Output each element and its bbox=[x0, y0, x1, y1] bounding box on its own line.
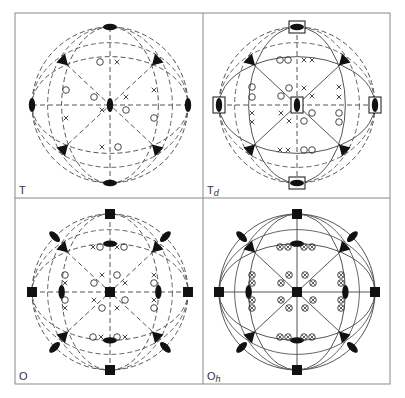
fourfold-axis-icon bbox=[292, 287, 302, 297]
circle-point-icon bbox=[115, 144, 122, 151]
cross-point-icon bbox=[63, 306, 68, 311]
cross-point-icon bbox=[115, 245, 120, 250]
cross-point-icon bbox=[99, 335, 104, 340]
twofold-axis-icon bbox=[155, 285, 161, 299]
circle-point-icon bbox=[151, 280, 158, 287]
circle-point-icon bbox=[90, 334, 97, 341]
cross-point-icon bbox=[64, 116, 69, 121]
circled-cross-point-icon bbox=[279, 281, 283, 285]
twofold-axis-icon bbox=[103, 180, 117, 186]
twofold-axis-icon bbox=[158, 229, 172, 243]
cross-point-icon bbox=[310, 58, 315, 63]
circled-cross-point-icon bbox=[303, 306, 307, 310]
panel-o: O bbox=[19, 209, 193, 382]
threefold-axis-icon bbox=[339, 54, 351, 66]
point-group-figure: TTdOOh bbox=[0, 0, 405, 398]
circle-point-icon bbox=[151, 305, 158, 312]
panel-label: T bbox=[19, 184, 26, 196]
circled-cross-point-icon bbox=[250, 306, 254, 310]
circled-cross-point-icon bbox=[286, 335, 290, 339]
circled-cross-point-icon bbox=[250, 273, 254, 277]
circled-cross-point-icon bbox=[339, 298, 343, 302]
twofold-axis-icon bbox=[342, 285, 348, 299]
twofold-axis-icon bbox=[372, 98, 378, 112]
cross-point-icon bbox=[100, 108, 105, 113]
panel-t: T bbox=[19, 24, 191, 196]
fourfold-axis-icon bbox=[105, 287, 115, 297]
twofold-axis-icon bbox=[47, 340, 61, 354]
cross-point-icon bbox=[286, 148, 291, 153]
circle-point-icon bbox=[336, 110, 343, 117]
circle-point-icon bbox=[122, 297, 129, 304]
circled-cross-point-icon bbox=[339, 306, 343, 310]
circled-cross-point-icon bbox=[250, 281, 254, 285]
twofold-axis-icon bbox=[103, 240, 117, 246]
twofold-axis-icon bbox=[345, 340, 359, 354]
circled-cross-point-icon bbox=[278, 245, 282, 249]
panel-label: O bbox=[19, 370, 28, 382]
cross-point-icon bbox=[337, 95, 342, 100]
cross-point-icon bbox=[337, 85, 342, 90]
twofold-axis-icon bbox=[216, 98, 222, 112]
twofold-axis-icon bbox=[103, 337, 117, 343]
fourfold-axis-icon bbox=[370, 287, 380, 297]
cross-point-icon bbox=[100, 273, 105, 278]
panel-oh: Oh bbox=[207, 209, 380, 384]
twofold-axis-icon bbox=[234, 340, 248, 354]
twofold-axis-icon bbox=[345, 229, 359, 243]
panel-label: Oh bbox=[207, 370, 221, 384]
circle-point-icon bbox=[336, 119, 343, 126]
circled-cross-point-icon bbox=[250, 298, 254, 302]
fourfold-axis-icon bbox=[292, 209, 302, 219]
twofold-axis-icon bbox=[290, 337, 304, 343]
fourfold-axis-icon bbox=[183, 287, 193, 297]
twofold-axis-icon bbox=[290, 240, 304, 246]
circled-cross-point-icon bbox=[310, 245, 314, 249]
cross-point-icon bbox=[115, 60, 120, 65]
twofold-axis-icon bbox=[158, 340, 172, 354]
circle-point-icon bbox=[63, 87, 70, 94]
circle-point-icon bbox=[97, 59, 104, 66]
cross-point-icon bbox=[100, 145, 105, 150]
circle-point-icon bbox=[301, 147, 308, 154]
cross-point-icon bbox=[302, 58, 307, 63]
fourfold-axis-icon bbox=[105, 209, 115, 219]
cross-point-icon bbox=[152, 88, 157, 93]
cross-point-icon bbox=[302, 86, 307, 91]
twofold-axis-icon bbox=[29, 98, 35, 112]
cross-point-icon bbox=[63, 281, 68, 286]
circled-cross-point-icon bbox=[279, 298, 283, 302]
cross-point-icon bbox=[123, 281, 128, 286]
circled-cross-point-icon bbox=[311, 281, 315, 285]
twofold-axis-icon bbox=[185, 98, 191, 112]
circled-cross-point-icon bbox=[287, 306, 291, 310]
circle-point-icon bbox=[151, 115, 158, 122]
circled-cross-point-icon bbox=[278, 335, 282, 339]
twofold-axis-icon bbox=[234, 229, 248, 243]
cross-point-icon bbox=[92, 298, 97, 303]
twofold-axis-icon bbox=[290, 180, 304, 186]
twofold-axis-icon bbox=[47, 229, 61, 243]
circle-point-icon bbox=[286, 85, 293, 92]
circled-cross-point-icon bbox=[339, 281, 343, 285]
circled-cross-point-icon bbox=[310, 335, 314, 339]
circled-cross-point-icon bbox=[303, 273, 307, 277]
twofold-axis-icon bbox=[103, 24, 117, 30]
twofold-axis-icon bbox=[294, 98, 300, 112]
cross-point-icon bbox=[310, 94, 315, 99]
cross-point-icon bbox=[124, 95, 129, 100]
twofold-axis-icon bbox=[290, 24, 304, 30]
circle-point-icon bbox=[62, 297, 69, 304]
fourfold-axis-icon bbox=[27, 287, 37, 297]
panel-label: Td bbox=[207, 184, 220, 198]
circled-cross-point-icon bbox=[311, 298, 315, 302]
cross-point-icon bbox=[278, 148, 283, 153]
circle-point-icon bbox=[114, 272, 121, 279]
cross-point-icon bbox=[91, 245, 96, 250]
panel-td: Td bbox=[207, 21, 381, 198]
twofold-axis-icon bbox=[107, 98, 113, 112]
fourfold-axis-icon bbox=[292, 365, 302, 375]
cross-point-icon bbox=[250, 120, 255, 125]
cross-point-icon bbox=[279, 111, 284, 116]
circled-cross-point-icon bbox=[302, 335, 306, 339]
